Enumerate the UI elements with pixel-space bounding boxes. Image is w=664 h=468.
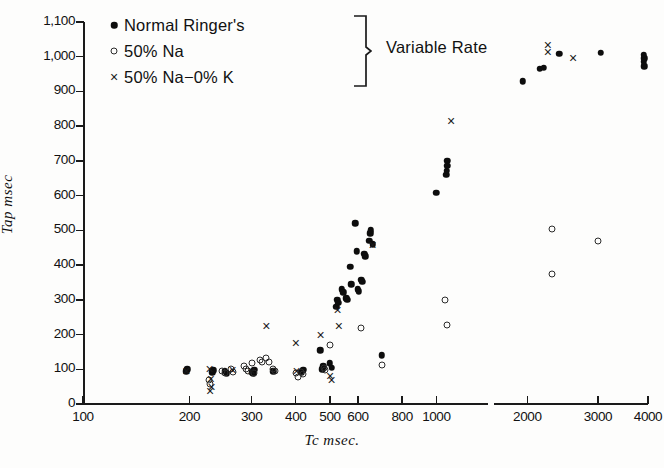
- data-point-filled-dot: [598, 49, 605, 56]
- x-axis-tick-label: 100: [72, 409, 93, 424]
- x-axis-tick-label: 600: [347, 409, 368, 424]
- x-axis-tick-label: 200: [179, 409, 200, 424]
- data-point-filled-dot: [520, 78, 527, 85]
- data-point-cross: [333, 320, 344, 331]
- legend-brace-icon: [352, 14, 372, 88]
- x-axis-tick-label: 3000: [584, 409, 612, 424]
- y-axis-tick-label: 700: [29, 152, 75, 167]
- open-circle-icon: [104, 41, 124, 61]
- data-point-filled-dot: [348, 281, 355, 288]
- legend-label: 50% Na−0% K: [124, 68, 234, 87]
- data-point-filled-dot: [641, 63, 648, 70]
- y-axis-tick-label: 400: [29, 256, 75, 271]
- data-point-open-circle: [272, 368, 279, 375]
- scatter-plot-figure: 01002003004005006007008009001,0001,100 1…: [0, 0, 664, 468]
- data-point-open-circle: [442, 296, 449, 303]
- x-axis-tick-label: 4000: [634, 409, 662, 424]
- y-axis-title: Tap msec: [0, 175, 16, 235]
- data-point-open-circle: [443, 321, 450, 328]
- data-point-filled-dot: [352, 220, 359, 227]
- data-point-open-circle: [265, 358, 272, 365]
- y-axis-tick-label: 0: [29, 395, 75, 410]
- y-axis-tick-label: 900: [29, 82, 75, 97]
- y-axis-tick-label: 500: [29, 221, 75, 236]
- data-point-cross: [205, 386, 216, 397]
- data-point-filled-dot: [367, 227, 374, 234]
- data-point-cross: [181, 365, 192, 376]
- data-point-open-circle: [357, 325, 364, 332]
- y-axis-tick-label: 300: [29, 291, 75, 306]
- filled-dot-icon: [104, 15, 124, 35]
- data-point-filled-dot: [347, 264, 354, 271]
- legend-item-50-na-0-k: 50% Na−0% K: [104, 64, 354, 90]
- y-axis-tick-label: 800: [29, 117, 75, 132]
- x-axis-tick-label: 800: [391, 409, 412, 424]
- data-point-cross: [290, 338, 301, 349]
- y-axis-tick-label: 600: [29, 187, 75, 202]
- data-point-open-circle: [326, 341, 333, 348]
- data-point-filled-dot: [641, 52, 648, 59]
- x-axis-tick-label: 1000: [422, 409, 450, 424]
- data-point-filled-dot: [359, 279, 366, 286]
- data-point-open-circle: [548, 225, 555, 232]
- y-axis-tick-label: 1,000: [29, 48, 75, 63]
- data-point-cross: [567, 53, 578, 64]
- data-point-filled-dot: [317, 347, 324, 354]
- data-point-filled-dot: [433, 190, 440, 197]
- data-point-cross: [367, 239, 378, 250]
- legend-label: 50% Na: [124, 42, 184, 61]
- data-point-filled-dot: [344, 297, 351, 304]
- data-point-cross: [542, 39, 553, 50]
- data-point-cross: [315, 329, 326, 340]
- data-point-cross: [246, 365, 257, 376]
- x-axis-tick-label: 2000: [513, 409, 541, 424]
- data-point-cross: [291, 366, 302, 377]
- legend-label: Normal Ringer's: [124, 16, 245, 35]
- legend-item-50-na: 50% Na: [104, 38, 354, 64]
- data-point-open-circle: [549, 270, 556, 277]
- data-point-cross: [261, 320, 272, 331]
- x-axis-title: Tc msec.: [0, 432, 664, 449]
- data-point-filled-dot: [444, 158, 451, 165]
- y-axis-tick-label: 100: [29, 360, 75, 375]
- legend: Normal Ringer's 50% Na 50% Na−0% K: [104, 12, 354, 90]
- data-point-cross: [445, 115, 456, 126]
- data-point-filled-dot: [556, 51, 563, 58]
- y-axis-tick-label: 1,100: [29, 13, 75, 28]
- data-point-cross: [326, 374, 337, 385]
- x-axis-tick-label: 300: [241, 409, 262, 424]
- data-point-open-circle: [378, 362, 385, 369]
- x-axis-tick-label: 400: [285, 409, 306, 424]
- x-axis-tick-label: 500: [319, 409, 340, 424]
- legend-item-normal-ringers: Normal Ringer's: [104, 12, 354, 38]
- cross-icon: [104, 67, 124, 87]
- data-point-cross: [227, 364, 238, 375]
- data-point-open-circle: [594, 237, 601, 244]
- data-point-cross: [332, 305, 343, 316]
- data-point-filled-dot: [354, 248, 361, 255]
- y-axis-tick-label: 200: [29, 326, 75, 341]
- data-point-filled-dot: [362, 253, 369, 260]
- data-point-filled-dot: [356, 288, 363, 295]
- legend-group-label: Variable Rate: [386, 38, 487, 57]
- data-point-filled-dot: [378, 352, 385, 359]
- data-point-filled-dot: [541, 65, 548, 72]
